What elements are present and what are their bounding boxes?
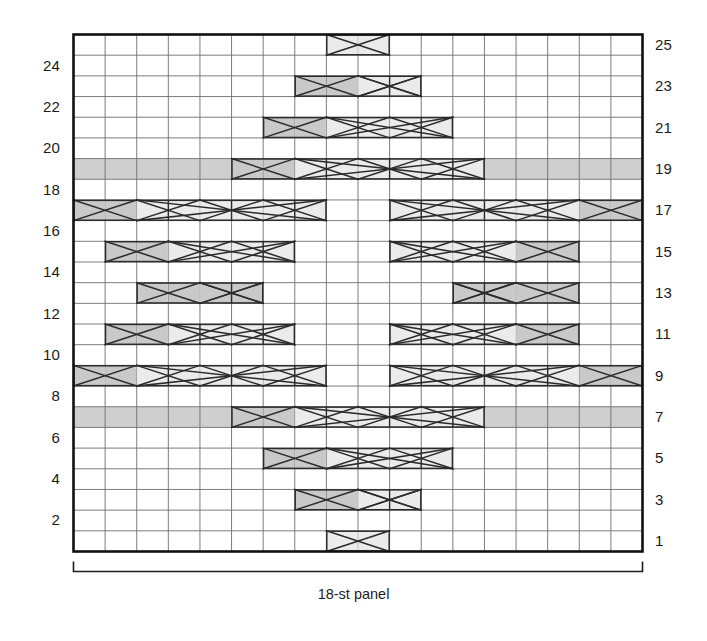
row-number-25: 25 <box>655 37 672 52</box>
cable-cell <box>232 242 263 262</box>
cable-cell <box>264 242 295 262</box>
cable-cell <box>169 242 200 262</box>
row-number-14: 14 <box>26 264 60 279</box>
row-number-10: 10 <box>26 347 60 362</box>
cable-cell <box>453 324 484 344</box>
cable-cell <box>611 200 642 220</box>
cable-cell <box>264 159 295 179</box>
cable-cell <box>264 449 295 469</box>
cable-cell <box>422 324 453 344</box>
row-number-17: 17 <box>655 202 672 217</box>
row-number-15: 15 <box>655 244 672 259</box>
row-number-5: 5 <box>655 450 664 465</box>
cable-cell <box>327 118 358 138</box>
row-number-22: 22 <box>26 99 60 114</box>
cable-cell <box>327 449 358 469</box>
cable-cell <box>517 324 548 344</box>
row-number-20: 20 <box>26 140 60 155</box>
cable-cell <box>232 283 263 303</box>
cable-cell <box>485 324 516 344</box>
cable-cell <box>358 449 389 469</box>
cable-cell <box>422 242 453 262</box>
cable-cell <box>422 118 453 138</box>
cable-cell <box>137 242 168 262</box>
cable-cell <box>390 242 421 262</box>
cable-cell <box>358 118 389 138</box>
row-number-6: 6 <box>26 430 60 445</box>
cable-cell <box>295 449 326 469</box>
cable-cell <box>295 118 326 138</box>
chart-caption: 18-st panel <box>0 586 707 602</box>
row-number-3: 3 <box>655 492 664 507</box>
row-number-7: 7 <box>655 409 664 424</box>
cable-cell <box>390 490 421 510</box>
row-number-21: 21 <box>655 120 672 135</box>
cable-cell <box>169 283 200 303</box>
cable-cell <box>264 118 295 138</box>
cable-cell <box>390 324 421 344</box>
cable-cell <box>358 76 389 96</box>
cable-cell <box>358 490 389 510</box>
panel-width-bracket <box>74 562 643 572</box>
cable-cell <box>548 283 579 303</box>
cable-cell <box>106 324 137 344</box>
row-number-19: 19 <box>655 161 672 176</box>
row-number-24: 24 <box>26 58 60 73</box>
cable-cell <box>232 407 263 427</box>
row-number-13: 13 <box>655 285 672 300</box>
cable-cell <box>327 76 358 96</box>
cable-cell <box>327 35 358 55</box>
cable-cell <box>106 242 137 262</box>
cable-cell <box>106 366 137 386</box>
chart-canvas <box>0 0 707 641</box>
cable-cell <box>390 76 421 96</box>
row-number-16: 16 <box>26 223 60 238</box>
cable-cell <box>327 531 358 551</box>
row-number-8: 8 <box>26 388 60 403</box>
cable-cell <box>485 283 516 303</box>
cable-cell <box>295 490 326 510</box>
row-number-12: 12 <box>26 306 60 321</box>
cable-cell <box>580 200 611 220</box>
cable-cell <box>422 449 453 469</box>
cable-cell <box>264 407 295 427</box>
row-number-23: 23 <box>655 78 672 93</box>
cable-cell <box>390 449 421 469</box>
cable-cell <box>548 324 579 344</box>
cable-cell <box>295 76 326 96</box>
cable-cell <box>232 159 263 179</box>
cable-cell <box>137 324 168 344</box>
row-number-2: 2 <box>26 512 60 527</box>
cable-cell <box>74 200 105 220</box>
cable-cell <box>232 324 263 344</box>
cable-cell <box>611 366 642 386</box>
cable-cell <box>137 283 168 303</box>
cable-cell <box>485 242 516 262</box>
cable-cell <box>453 242 484 262</box>
knitting-chart: 18-st panel 2468101214161820222413579111… <box>0 0 707 641</box>
cable-cell <box>580 366 611 386</box>
cable-cell <box>517 242 548 262</box>
cable-cell <box>327 490 358 510</box>
cable-cell <box>106 200 137 220</box>
cable-cell <box>358 35 389 55</box>
cable-cell <box>358 531 389 551</box>
row-number-1: 1 <box>655 533 664 548</box>
cable-cell <box>200 324 231 344</box>
cable-cell <box>453 283 484 303</box>
row-number-4: 4 <box>26 471 60 486</box>
row-number-9: 9 <box>655 368 664 383</box>
cable-cell <box>169 324 200 344</box>
cable-cell <box>200 242 231 262</box>
row-number-11: 11 <box>655 326 671 341</box>
cable-cell <box>390 118 421 138</box>
cable-cell <box>517 283 548 303</box>
row-number-18: 18 <box>26 182 60 197</box>
cable-cell <box>74 366 105 386</box>
cable-cell <box>200 283 231 303</box>
cable-cell <box>548 242 579 262</box>
cable-cell <box>264 324 295 344</box>
